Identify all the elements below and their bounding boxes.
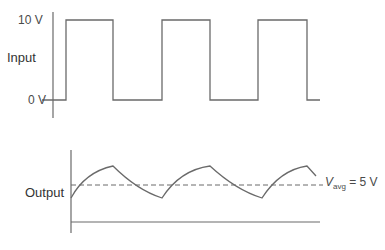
output-label: Output bbox=[25, 185, 64, 200]
avg-value: = 5 V bbox=[349, 175, 377, 189]
avg-voltage-symbol: V bbox=[325, 175, 333, 189]
average-voltage-label: Vavg = 5 V bbox=[325, 175, 378, 191]
input-square-wave bbox=[42, 20, 320, 100]
input-label: Input bbox=[7, 50, 36, 65]
waveform-diagram bbox=[0, 0, 385, 250]
input-high-tick-label: 10 V bbox=[18, 13, 43, 27]
output-rc-curve bbox=[71, 166, 316, 198]
avg-subscript: avg bbox=[333, 182, 346, 191]
input-low-tick-label: 0 V bbox=[28, 93, 46, 107]
